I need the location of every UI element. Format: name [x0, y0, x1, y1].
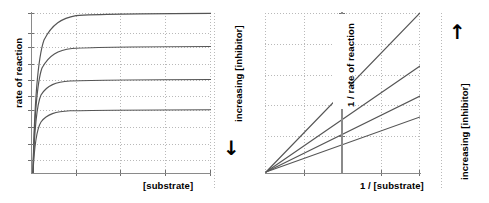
x-axis-label: [substrate]: [143, 181, 193, 191]
down-arrow-icon: ↓: [223, 138, 240, 158]
increasing-inhibitor-label: increasing [inhibitor]: [460, 83, 470, 180]
increasing-inhibitor-label: increasing [inhibitor]: [234, 25, 244, 122]
michaelis-menten-panel: rate of reaction [substrate] increasing …: [0, 0, 245, 203]
curve-no-inhibitor: [33, 13, 211, 173]
enzyme-kinetics-figure: rate of reaction [substrate] increasing …: [0, 0, 489, 203]
lineweaver-burk-panel: 1 / rate of reaction 1 / [substrate] inc…: [245, 0, 489, 203]
grid-horizontal: [31, 14, 210, 161]
saturation-curves: [33, 13, 211, 173]
x-axis-label: 1 / [substrate]: [360, 181, 424, 191]
curve-high-inhibitor: [33, 110, 211, 173]
grid-vertical: [76, 13, 210, 173]
y-axis-label: 1 / rate of reaction: [346, 23, 356, 107]
up-arrow-icon: ↑: [449, 22, 466, 42]
line-no-inhibitor: [266, 117, 420, 172]
curve-medium-inhibitor: [33, 80, 211, 174]
y-axis-label: rate of reaction: [14, 38, 24, 108]
michaelis-menten-plot: [0, 0, 245, 203]
